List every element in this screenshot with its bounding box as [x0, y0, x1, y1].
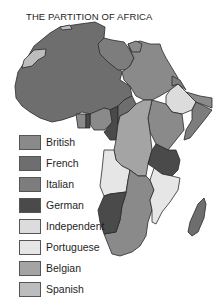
legend-swatch-belgian	[19, 261, 41, 276]
legend-swatch-portuguese	[19, 240, 41, 255]
legend-label: Italian	[46, 178, 74, 190]
legend-swatch-french	[19, 156, 41, 171]
legend-label: Independent	[46, 220, 104, 232]
region-german-togo	[86, 114, 90, 128]
legend-swatch-german	[19, 198, 41, 213]
legend-item-independent: Independent	[19, 217, 104, 235]
legend-item-portuguese: Portuguese	[19, 238, 100, 256]
legend-item-german: German	[19, 196, 84, 214]
region-french-north-west	[15, 22, 132, 122]
legend-label: Portuguese	[46, 241, 100, 253]
region-french-madagascar	[188, 198, 206, 236]
legend-item-french: French	[19, 154, 79, 172]
region-spanish-morocco	[60, 25, 72, 30]
legend-label: British	[46, 136, 75, 148]
region-british-west-coast	[76, 114, 86, 128]
legend-swatch-british	[19, 135, 41, 150]
legend-swatch-italian	[19, 177, 41, 192]
legend-swatch-spanish	[19, 282, 41, 297]
region-portuguese-mozambique	[150, 168, 180, 224]
legend-swatch-independent	[19, 219, 41, 234]
legend-item-spanish: Spanish	[19, 280, 84, 298]
legend-label: German	[46, 199, 84, 211]
legend-label: Belgian	[46, 262, 81, 274]
legend-label: Spanish	[46, 283, 84, 295]
legend-item-italian: Italian	[19, 175, 74, 193]
legend-label: French	[46, 157, 79, 169]
legend-item-belgian: Belgian	[19, 259, 81, 277]
legend-item-british: British	[19, 133, 75, 151]
